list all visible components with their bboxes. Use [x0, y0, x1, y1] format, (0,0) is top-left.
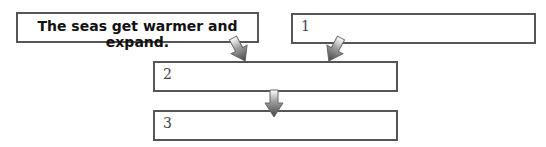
- given-statement-box: The seas get warmer and expand.: [16, 12, 259, 43]
- answer-box-2[interactable]: 2: [153, 61, 398, 92]
- answer-box-3[interactable]: 3: [153, 110, 398, 141]
- answer-box-2-number: 2: [163, 66, 172, 82]
- answer-box-1[interactable]: 1: [291, 13, 536, 44]
- answer-box-1-number: 1: [301, 18, 310, 34]
- given-statement-text: The seas get warmer and expand.: [18, 18, 257, 50]
- answer-box-3-number: 3: [163, 115, 172, 131]
